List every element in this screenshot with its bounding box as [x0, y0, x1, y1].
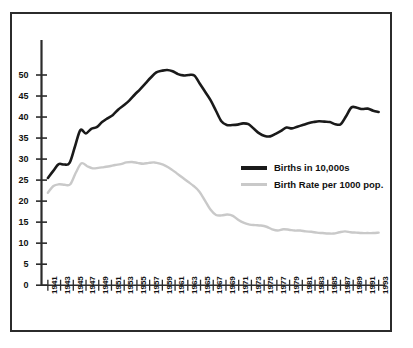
x-tick-label-1963: 1963 — [191, 276, 199, 294]
y-tick-label-35: 35 — [9, 134, 29, 143]
x-tick-label-1953: 1953 — [127, 276, 135, 294]
legend-item-birth-rate: Birth Rate per 1000 pop. — [241, 177, 391, 192]
x-tick-label-1975: 1975 — [267, 276, 275, 294]
y-tick-label-5: 5 — [9, 260, 29, 269]
x-tick-label-1941: 1941 — [51, 276, 59, 294]
legend-item-births: Births in 10,000s — [241, 160, 391, 175]
y-tick-label-50: 50 — [9, 71, 29, 80]
y-tick-label-15: 15 — [9, 218, 29, 227]
x-tick-label-1969: 1969 — [229, 276, 237, 294]
x-tick-label-1959: 1959 — [166, 276, 174, 294]
legend-swatch-births-icon — [241, 166, 267, 170]
x-tick-label-1947: 1947 — [89, 276, 97, 294]
x-tick-label-1971: 1971 — [242, 276, 250, 294]
y-tick-label-40: 40 — [9, 113, 29, 122]
x-tick-label-1967: 1967 — [216, 276, 224, 294]
y-tick-label-0: 0 — [9, 281, 29, 290]
x-tick-label-1979: 1979 — [293, 276, 301, 294]
x-tick-label-1957: 1957 — [153, 276, 161, 294]
x-tick-label-1987: 1987 — [344, 276, 352, 294]
legend-label-birth-rate: Birth Rate per 1000 pop. — [274, 179, 383, 190]
y-tick-label-10: 10 — [9, 239, 29, 248]
data-series-lines — [48, 70, 379, 234]
x-tick-label-1951: 1951 — [115, 276, 123, 294]
x-tick-label-1989: 1989 — [356, 276, 364, 294]
x-tick-label-1945: 1945 — [77, 276, 85, 294]
x-tick-label-1993: 1993 — [382, 276, 390, 294]
x-tick-label-1981: 1981 — [306, 276, 314, 294]
y-tick-label-45: 45 — [9, 92, 29, 101]
x-tick-label-1983: 1983 — [318, 276, 326, 294]
chart-page: 05101520253035404550 1941194319451947194… — [0, 0, 413, 348]
x-tick-label-1955: 1955 — [140, 276, 148, 294]
y-tick-label-25: 25 — [9, 176, 29, 185]
x-tick-label-1991: 1991 — [369, 276, 377, 294]
x-tick-label-1973: 1973 — [255, 276, 263, 294]
x-tick-label-1961: 1961 — [178, 276, 186, 294]
x-tick-label-1985: 1985 — [331, 276, 339, 294]
chart-legend: Births in 10,000s Birth Rate per 1000 po… — [241, 160, 391, 194]
legend-swatch-birth-rate-icon — [241, 183, 267, 186]
x-tick-label-1949: 1949 — [102, 276, 110, 294]
legend-label-births: Births in 10,000s — [274, 162, 350, 173]
y-tick-label-30: 30 — [9, 155, 29, 164]
y-tick-label-20: 20 — [9, 197, 29, 206]
x-tick-label-1943: 1943 — [64, 276, 72, 294]
x-tick-label-1977: 1977 — [280, 276, 288, 294]
x-tick-label-1965: 1965 — [204, 276, 212, 294]
